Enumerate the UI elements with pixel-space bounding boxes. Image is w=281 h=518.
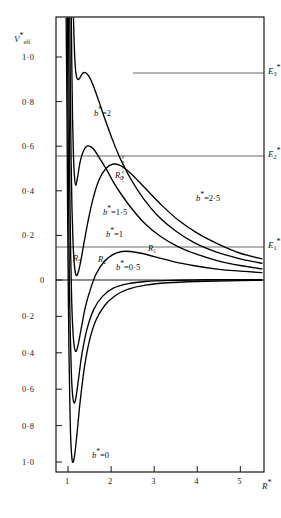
point-label-R1: R1 [148, 243, 156, 253]
plot-frame [56, 17, 264, 472]
y-tick-label: 0·8 [22, 421, 34, 431]
curve-label-b-2: b*=2 [94, 108, 111, 118]
curve-label-b-0: b*=0 [92, 450, 109, 460]
y-tick-label: 1·0 [22, 52, 34, 62]
potential-curves [66, 17, 262, 463]
curve-label-b-1-5: b*=1·5 [103, 207, 127, 217]
y-tick-label: 0·2 [22, 311, 34, 321]
curve-b*=0.5 [67, 17, 261, 403]
x-tick-label: 2 [108, 476, 113, 486]
curve-label-b-0-5: b*=0·5 [116, 262, 140, 272]
y-tick-label: 0·4 [22, 348, 34, 358]
energy-level-label-E2: E2* [268, 149, 281, 159]
curve-label-b-2-5: b*=2·5 [196, 193, 220, 203]
energy-level-label-E1: E1* [268, 240, 281, 250]
energy-level-lines [56, 73, 264, 247]
x-tick-label: 4 [194, 476, 199, 486]
curve-b*=2.5-upper [73, 17, 261, 263]
y-tick-label: 0·6 [22, 384, 34, 394]
y-tick-label: 0·8 [22, 97, 34, 107]
x-axis-label: R* [262, 481, 272, 491]
point-label-R3: R3 [73, 253, 81, 263]
x-tick-label: 5 [237, 476, 242, 486]
x-tick-label: 1 [65, 476, 70, 486]
curve-b*=0 [66, 17, 262, 463]
point-label-R2: R2 [98, 254, 106, 264]
y-tick-label: 0·4 [22, 186, 34, 196]
curve-b*=2 [71, 17, 262, 269]
plot-canvas [0, 0, 281, 518]
y-tick-label: 1·0 [22, 457, 34, 467]
x-tick-label: 3 [151, 476, 156, 486]
y-tick-label: 0·6 [22, 141, 34, 151]
curve-label-b-1: b*=1 [106, 229, 123, 239]
effective-potential-figure: V*eff R* 1·00·80·60·40·200·20·40·60·81·0… [0, 0, 281, 518]
y-tick-label: 0·2 [22, 230, 34, 240]
y-tick-label: 0 [40, 275, 45, 285]
curve-b*=1.5 [70, 17, 262, 276]
axis-ticks [56, 57, 240, 472]
energy-level-label-E3: E3* [268, 66, 281, 76]
y-axis-label: V*eff [14, 34, 30, 44]
point-label-R0: R0 [115, 170, 123, 180]
